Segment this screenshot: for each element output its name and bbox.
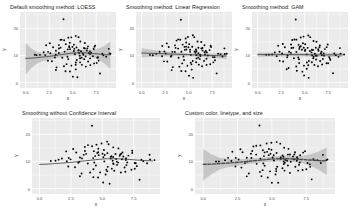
x-tick-labels-custom: 0.02.55.07.5: [195, 196, 335, 203]
x-tick-labels-loess: 0.02.55.07.5: [20, 90, 116, 97]
x-tick-label: 7.5: [209, 90, 215, 95]
x-axis-label-no-ci: x: [32, 202, 160, 207]
x-tick-label: 2.5: [46, 90, 52, 95]
x-tick-label: 7.5: [131, 196, 137, 201]
y-tick-label: 10: [13, 53, 18, 58]
x-tick-labels-lm: 0.02.55.07.5: [136, 90, 232, 97]
chart-panel-no-ci: Smoothing without Confidence Interval0.0…: [0, 0, 354, 219]
plot-area-custom: [195, 118, 335, 194]
x-tick-label: 7.5: [325, 90, 331, 95]
y-tick-labels-gam: 01020: [241, 12, 250, 88]
x-tick-label: 2.5: [235, 196, 241, 201]
x-tick-label: 0.0: [23, 90, 29, 95]
y-axis-label-loess: y: [2, 44, 7, 56]
y-tick-labels-custom: 01020: [184, 118, 193, 194]
y-tick-label: 20: [25, 132, 30, 137]
x-tick-label: 5.0: [70, 90, 76, 95]
y-tick-label: 0: [132, 80, 134, 85]
x-tick-label: 5.0: [302, 90, 308, 95]
x-tick-label: 2.5: [68, 196, 74, 201]
chart-panel-gam: Smoothing method: GAM0.02.55.07.501020xy: [0, 0, 354, 219]
y-axis-label-custom: y: [177, 150, 182, 162]
plot-area-loess: [20, 12, 116, 88]
panel-title-no-ci: Smoothing without Confidence Interval: [22, 110, 116, 116]
y-tick-labels-lm: 01020: [125, 12, 134, 88]
x-tick-label: 0.0: [200, 196, 206, 201]
x-tick-label: 2.5: [162, 90, 168, 95]
x-axis-label-lm: x: [136, 96, 232, 101]
y-tick-label: 20: [188, 132, 193, 137]
panel-title-gam: Smoothing method: GAM: [242, 4, 304, 10]
figure-root: Default smoothing method: LOESS0.02.55.0…: [0, 0, 354, 219]
y-tick-label: 10: [188, 159, 193, 164]
scatter-points: [149, 19, 228, 79]
scatter-points: [265, 19, 345, 79]
x-tick-labels-gam: 0.02.55.07.5: [252, 90, 348, 97]
y-tick-label: 0: [248, 80, 250, 85]
scatter-points: [215, 125, 328, 184]
x-tick-label: 5.0: [186, 90, 192, 95]
y-tick-labels-no-ci: 01020: [21, 118, 30, 194]
scatter-points: [50, 125, 156, 185]
chart-panel-loess: Default smoothing method: LOESS0.02.55.0…: [0, 0, 354, 219]
panel-title-lm: Smoothing method: Linear Regression: [126, 4, 220, 10]
chart-panel-custom: Custom color, linetype, and size0.02.55.…: [0, 0, 354, 219]
x-tick-labels-no-ci: 0.02.55.07.5: [32, 196, 160, 203]
y-tick-label: 0: [16, 80, 18, 85]
y-axis-label-gam: y: [234, 44, 239, 56]
plot-area-gam: [252, 12, 348, 88]
x-tick-label: 7.5: [93, 90, 99, 95]
chart-panel-lm: Smoothing method: Linear Regression0.02.…: [0, 0, 354, 219]
y-axis-label-no-ci: y: [14, 150, 19, 162]
smooth-line: [203, 159, 327, 165]
confidence-ribbon: [26, 41, 111, 74]
y-tick-label: 20: [13, 26, 18, 31]
x-tick-label: 0.0: [37, 196, 43, 201]
confidence-ribbon: [203, 147, 327, 180]
x-tick-label: 5.0: [99, 196, 105, 201]
x-tick-label: 7.5: [303, 196, 309, 201]
panel-title-custom: Custom color, linetype, and size: [185, 110, 263, 116]
plot-area-no-ci: [32, 118, 160, 194]
x-axis-label-loess: x: [20, 96, 116, 101]
scatter-points: [34, 18, 112, 78]
y-tick-label: 20: [245, 26, 250, 31]
y-tick-label: 0: [191, 186, 193, 191]
x-axis-label-gam: x: [252, 96, 348, 101]
y-tick-label: 10: [25, 159, 30, 164]
confidence-ribbon: [142, 48, 227, 59]
y-tick-label: 20: [129, 26, 134, 31]
smooth-line: [26, 53, 111, 59]
x-tick-label: 5.0: [269, 196, 275, 201]
panel-title-loess: Default smoothing method: LOESS: [10, 4, 95, 10]
y-tick-label: 10: [245, 53, 250, 58]
x-tick-label: 2.5: [278, 90, 284, 95]
confidence-ribbon: [258, 52, 343, 57]
y-axis-label-lm: y: [118, 44, 123, 56]
x-tick-label: 0.0: [139, 90, 145, 95]
smooth-line: [40, 159, 153, 165]
y-tick-label: 0: [28, 186, 30, 191]
smooth-line: [142, 53, 227, 56]
x-tick-label: 0.0: [255, 90, 261, 95]
plot-area-lm: [136, 12, 232, 88]
y-tick-labels-loess: 01020: [9, 12, 18, 88]
y-tick-label: 10: [129, 53, 134, 58]
x-axis-label-custom: x: [195, 202, 335, 207]
